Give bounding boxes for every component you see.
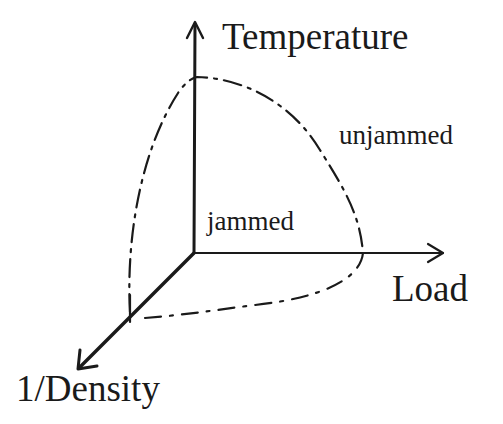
density-axis bbox=[80, 253, 194, 367]
temperature-axis bbox=[194, 24, 195, 253]
boundary-upper-arc bbox=[129, 77, 363, 312]
axes bbox=[78, 22, 443, 369]
unjammed-region-label: unjammed bbox=[339, 122, 453, 149]
temperature-axis-label: Temperature bbox=[222, 18, 408, 55]
jamming-boundary bbox=[129, 77, 363, 322]
load-axis-label: Load bbox=[392, 270, 468, 307]
density-axis-label: 1/Density bbox=[16, 370, 160, 407]
boundary-lower-arc bbox=[145, 253, 363, 318]
jammed-region-label: jammed bbox=[207, 208, 294, 235]
